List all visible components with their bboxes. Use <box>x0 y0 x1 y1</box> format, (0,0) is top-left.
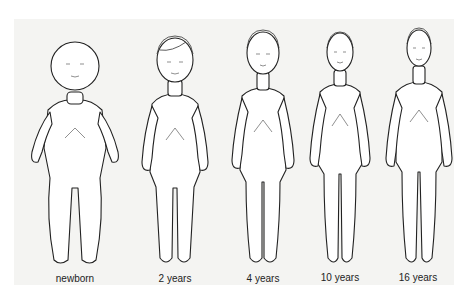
figure-4-years <box>218 20 308 272</box>
figure-10-years <box>300 22 380 272</box>
label-4-years: 4 years <box>228 273 298 284</box>
label-2-years: 2 years <box>140 273 210 284</box>
label-10-years: 10 years <box>305 272 375 283</box>
figure-newborn <box>20 28 130 268</box>
label-16-years: 16 years <box>383 272 453 283</box>
label-newborn: newborn <box>40 273 110 284</box>
figure-16-years <box>378 22 460 272</box>
figure-2-years <box>130 22 220 272</box>
